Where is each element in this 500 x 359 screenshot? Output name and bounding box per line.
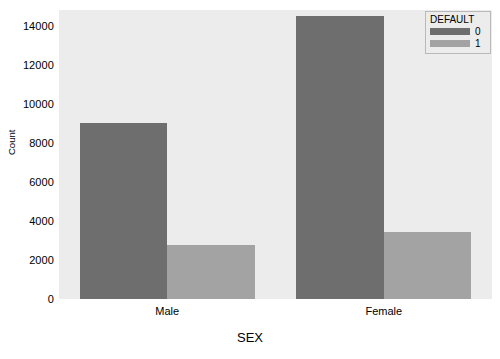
legend-item-label: 1 [475, 38, 481, 49]
x-axis-tick-labels: MaleFemale [59, 305, 492, 323]
y-axis-tick-label: 14000 [23, 20, 54, 32]
legend-item-label: 0 [475, 26, 481, 37]
legend-color-swatch [430, 40, 470, 47]
legend-entries: 01 [430, 26, 486, 49]
y-axis-tick-label: 6000 [29, 176, 54, 188]
y-axis-tick-label: 8000 [29, 137, 54, 149]
y-axis-tick-label: 10000 [23, 98, 54, 110]
legend-item: 1 [430, 38, 486, 49]
bar [296, 16, 384, 299]
y-axis-tick-label: 4000 [29, 215, 54, 227]
y-axis-tick-label: 0 [48, 293, 54, 305]
legend-color-swatch [430, 28, 470, 35]
bar [384, 232, 472, 299]
chart-figure: 02000400060008000100001200014000 Count M… [0, 0, 500, 359]
legend: DEFAULT 01 [425, 11, 491, 54]
y-axis-tick-label: 12000 [23, 59, 54, 71]
legend-item: 0 [430, 26, 486, 37]
x-axis-title: SEX [0, 330, 500, 345]
bar [167, 245, 255, 299]
y-axis-title: Count [6, 130, 17, 155]
bar [80, 123, 168, 299]
x-axis-tick-label: Male [155, 305, 179, 317]
y-axis-tick-label: 2000 [29, 254, 54, 266]
x-axis-tick-label: Female [365, 305, 402, 317]
legend-title: DEFAULT [430, 14, 486, 25]
